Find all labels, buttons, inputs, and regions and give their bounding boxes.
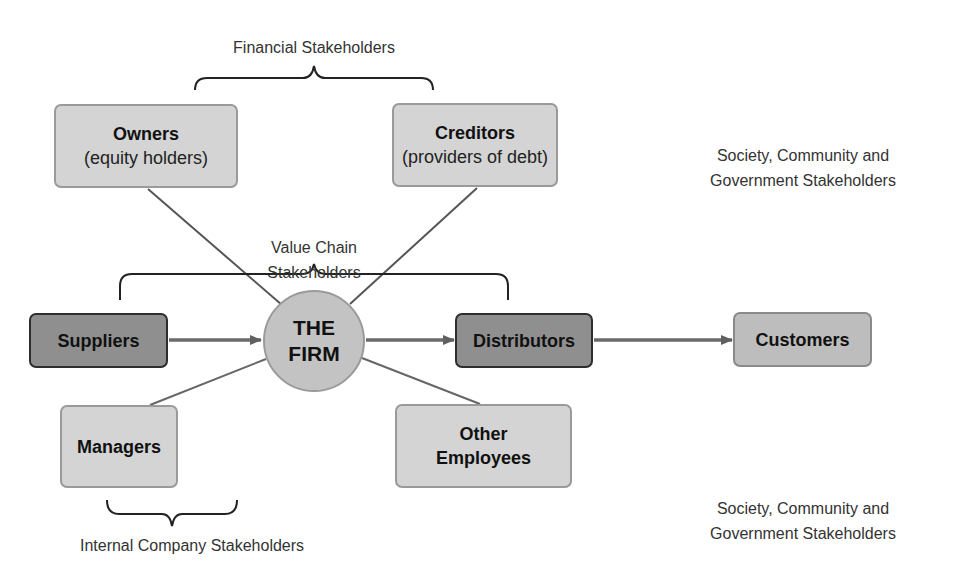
internal-bracket [107,500,237,526]
society-bottom-line2: Government Stakeholders [663,521,943,546]
owners-subtitle: (equity holders) [84,146,208,170]
the-firm-line1: THE [293,315,335,341]
creditors-subtitle: (providers of debt) [402,145,548,169]
society-stakeholders-label-top: Society, Community and Government Stakeh… [663,143,943,193]
value-chain-label-line1: Value Chain [214,235,414,260]
other-employees-line2: Employees [436,446,531,470]
value-chain-label-line2: Stakeholders [214,260,414,285]
distributors-title: Distributors [473,329,575,353]
internal-label-text: Internal Company Stakeholders [80,537,304,554]
financial-label-text: Financial Stakeholders [233,39,395,56]
financial-bracket [195,66,433,90]
society-bottom-line1: Society, Community and [663,496,943,521]
society-top-line2: Government Stakeholders [663,168,943,193]
financial-stakeholders-label: Financial Stakeholders [187,36,441,59]
connector-layer [0,0,956,581]
distributors-node: Distributors [455,313,593,368]
creditors-title: Creditors [435,121,515,145]
other-employees-node: Other Employees [395,404,572,488]
suppliers-node: Suppliers [29,313,168,368]
value-chain-stakeholders-label: Value Chain Stakeholders [214,235,414,285]
society-stakeholders-label-bottom: Society, Community and Government Stakeh… [663,496,943,546]
creditors-node: Creditors (providers of debt) [392,103,558,187]
the-firm-node: THE FIRM [263,290,365,392]
owners-node: Owners (equity holders) [54,104,238,188]
customers-node: Customers [733,312,872,367]
society-top-line1: Society, Community and [663,143,943,168]
owners-title: Owners [113,122,179,146]
other-employees-line1: Other [459,422,507,446]
the-firm-line2: FIRM [288,341,339,367]
managers-firm-line [150,359,266,405]
customers-title: Customers [755,328,849,352]
suppliers-title: Suppliers [57,329,139,353]
internal-company-stakeholders-label: Internal Company Stakeholders [72,534,312,557]
managers-node: Managers [60,405,178,488]
managers-title: Managers [77,435,161,459]
